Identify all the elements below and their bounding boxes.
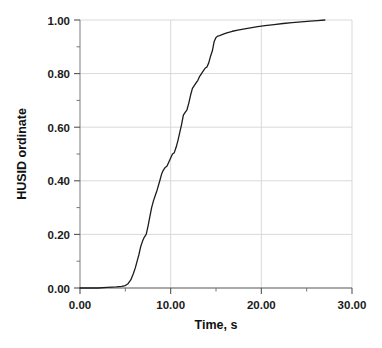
y-tick-label-0.40: 0.40 (48, 175, 70, 187)
x-tick-label-0: 0.00 (69, 299, 91, 311)
y-tick-label-0.80: 0.80 (48, 68, 70, 80)
cropped-caption-fragment (8, 336, 238, 345)
y-tick-label-1.00: 1.00 (48, 15, 70, 27)
husid-plot-chart: 1.00 0.80 0.60 0.40 0.20 0.00 0.00 10.00… (0, 0, 382, 348)
y-tick-label-0.20: 0.20 (48, 229, 70, 241)
x-axis-tick-labels: 0.00 10.00 20.00 30.00 (69, 299, 367, 311)
plot-area-background (80, 20, 352, 288)
y-axis-title: HUSID ordinate (15, 108, 29, 200)
x-tick-label-30: 30.00 (338, 299, 367, 311)
x-tick-label-10: 10.00 (156, 299, 185, 311)
y-tick-label-0.00: 0.00 (48, 283, 70, 295)
figure-container: 1.00 0.80 0.60 0.40 0.20 0.00 0.00 10.00… (0, 0, 382, 348)
x-tick-label-20: 20.00 (247, 299, 276, 311)
y-axis-tick-labels: 1.00 0.80 0.60 0.40 0.20 0.00 (48, 15, 70, 295)
y-tick-label-0.60: 0.60 (48, 122, 70, 134)
x-axis-title: Time, s (195, 318, 238, 332)
